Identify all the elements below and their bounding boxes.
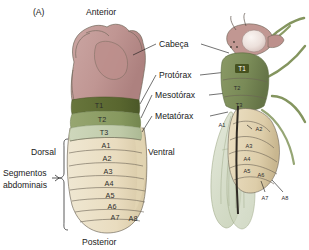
callout-label-metatorax: Metatórax (155, 111, 194, 121)
fly-segment-label-T2: T2 (234, 85, 241, 91)
fly-ocellus (233, 41, 235, 43)
callout-label-protorax: Protórax (159, 70, 192, 80)
fly-segment-label-A4: A4 (244, 156, 251, 162)
larva-segment-label-T1: T1 (95, 101, 103, 110)
orientation-posterior: Posterior (82, 237, 117, 247)
fly-ocellus (230, 46, 232, 48)
fly-segment-label-A7: A7 (262, 195, 269, 201)
orientation-ventral: Ventral (148, 147, 175, 157)
fly-thorax (221, 53, 269, 111)
fly-segment-label-A2: A2 (256, 126, 263, 132)
larva-segment-label-A7: A7 (111, 213, 120, 222)
fly-segment-label-T1: T1 (238, 65, 246, 72)
callout-label-cabeca: Cabeça (159, 39, 189, 49)
orientation-dorsal: Dorsal (31, 147, 56, 157)
panel-label: (A) (33, 7, 45, 17)
fly-ocellus (236, 46, 238, 48)
orientation-anterior: Anterior (86, 7, 116, 17)
larva-segment-label-A8: A8 (129, 214, 138, 223)
fly-segment-label-A6: A6 (258, 172, 265, 178)
bracket-label-line2: abdominais (3, 180, 47, 190)
fly-segment-label-A5: A5 (244, 168, 251, 174)
larva-segment-label-A4: A4 (105, 179, 114, 188)
larva-segment-label-T2: T2 (98, 115, 106, 124)
drosophila-segmentation-diagram: (A) Anterior Posterior Dorsal Ventral T1… (0, 0, 309, 250)
larva-drosophila: T1 T2 T3 A1 A2 A3 A4 A5 A6 A7 A8 (67, 24, 147, 233)
larva-segment-label-A1: A1 (102, 141, 111, 150)
larva-segment-label-A2: A2 (103, 154, 112, 163)
larva-segment-label-A3: A3 (104, 167, 113, 176)
callout-label-mesotorax: Mesotórax (155, 90, 196, 100)
fly-segment-label-T3: T3 (236, 102, 243, 108)
fly-segment-label-A1: A1 (219, 122, 226, 128)
fly-segment-label-A8: A8 (282, 195, 289, 201)
fly-compound-eye (242, 30, 266, 52)
bracket-label-line1: Segmentos (3, 168, 46, 178)
fly-segment-label-A3: A3 (246, 143, 253, 149)
larva-segment-label-T3: T3 (100, 128, 108, 137)
